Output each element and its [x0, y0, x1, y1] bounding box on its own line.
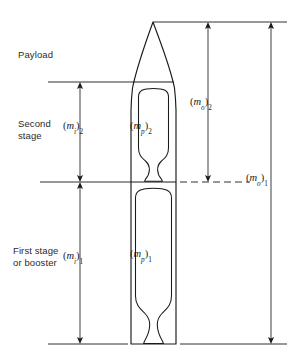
propellant-mass-1-stage-number: 1: [148, 256, 152, 264]
gross-mass-1-symbol: m: [250, 172, 258, 183]
first-stage-label-line-2: or booster: [13, 257, 58, 269]
rocket-staging-diagram: Payload Second stage First stage or boos…: [0, 0, 294, 364]
gross-mass-1-subscript: o: [257, 180, 261, 188]
label-propellant-mass-stage-2: (mp)2: [130, 120, 152, 131]
inert-mass-1-subscript: i: [74, 258, 76, 266]
second-stage-label-line-2: stage: [18, 130, 51, 142]
inert-mass-2-subscript: i: [74, 128, 76, 136]
second-stage-label-line-1: Second: [18, 118, 51, 130]
gross-mass-2-stage-number: 2: [208, 104, 212, 112]
label-gross-mass-stage-1: (mo)1: [246, 172, 268, 183]
label-gross-mass-stage-2: (mo)2: [190, 96, 212, 107]
rocket-outline: [131, 22, 176, 344]
inert-mass-1-symbol: m: [67, 250, 75, 261]
inert-mass-2-stage-number: 2: [80, 128, 84, 136]
stage-label-first-stage: First stage or booster: [13, 245, 58, 269]
dimension-arrow-gross-mass-stage-1: [268, 22, 274, 344]
propellant-mass-2-stage-number: 2: [148, 128, 152, 136]
stage-label-second-stage: Second stage: [18, 118, 51, 142]
propellant-mass-2-subscript: p: [141, 128, 145, 136]
gross-mass-2-symbol: m: [194, 96, 202, 107]
stage-label-payload: Payload: [18, 49, 53, 61]
propellant-mass-1-symbol: m: [134, 248, 142, 259]
inert-mass-2-symbol: m: [67, 120, 75, 131]
first-stage-label-line-1: First stage: [13, 245, 58, 257]
label-inert-mass-stage-1: (mi)1: [63, 250, 83, 261]
gross-mass-1-stage-number: 1: [264, 180, 268, 188]
rocket-body-shell: [131, 22, 176, 344]
payload-label-line-1: Payload: [18, 49, 53, 61]
propellant-mass-1-subscript: p: [141, 256, 145, 264]
label-propellant-mass-stage-1: (mp)1: [130, 248, 152, 259]
gross-mass-2-subscript: o: [201, 104, 205, 112]
label-inert-mass-stage-2: (mi)2: [63, 120, 83, 131]
propellant-mass-2-symbol: m: [134, 120, 142, 131]
inert-mass-1-stage-number: 1: [80, 258, 84, 266]
